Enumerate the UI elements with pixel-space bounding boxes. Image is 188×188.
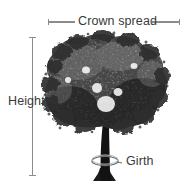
girth-label: Girth: [126, 155, 154, 168]
tree-illustration: [40, 30, 176, 181]
crown-spread-label: Crown spread: [78, 15, 157, 28]
tree-measurement-diagram: Crown spread Height Girth: [0, 0, 188, 188]
crown-spread-rule-left: [48, 19, 75, 25]
height-label: Height: [8, 95, 45, 108]
tree-trunk: [101, 122, 110, 181]
